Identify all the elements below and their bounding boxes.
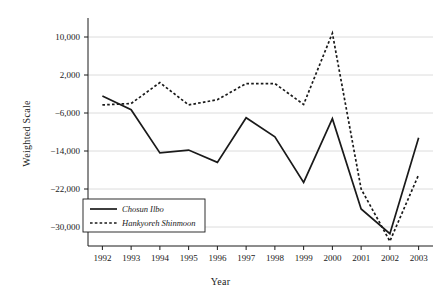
x-tick-label: 2002 [381, 253, 399, 263]
chart-figure: Weighted Scale Year 10,0002,000−6,000−14… [0, 0, 441, 300]
chart-legend: Chosun Ilbo Hankyoreh Shinmoon [83, 199, 205, 232]
x-axis-ticks-group: 1992199319941995199619971998199920002001… [93, 246, 428, 263]
x-tick-label: 1998 [266, 253, 285, 263]
x-tick-label: 1992 [93, 253, 111, 263]
x-tick-label: 1994 [151, 253, 170, 263]
x-tick-label: 2003 [410, 253, 429, 263]
y-axis-ticks-group: 10,0002,000−6,000−14,000−22,000−30,000 [50, 32, 88, 232]
x-tick-label: 1997 [237, 253, 256, 263]
y-tick-label: −6,000 [55, 108, 81, 118]
y-tick-label: 10,000 [55, 32, 80, 42]
line-chart-plot: 10,0002,000−6,000−14,000−22,000−30,000 1… [0, 0, 441, 300]
x-tick-label: 1995 [180, 253, 199, 263]
y-tick-label: −30,000 [50, 222, 80, 232]
legend-label-hankyoreh-shinmoon: Hankyoreh Shinmoon [121, 218, 196, 228]
gridlines-group [88, 37, 433, 227]
x-tick-label: 2000 [323, 253, 342, 263]
y-tick-label: 2,000 [60, 70, 81, 80]
x-tick-label: 1996 [208, 253, 227, 263]
x-tick-label: 2001 [352, 253, 370, 263]
y-tick-label: −22,000 [50, 184, 80, 194]
x-tick-label: 1993 [122, 253, 141, 263]
y-tick-label: −14,000 [50, 146, 80, 156]
x-tick-label: 1999 [295, 253, 314, 263]
legend-label-chosun-ilbo: Chosun Ilbo [122, 204, 164, 214]
